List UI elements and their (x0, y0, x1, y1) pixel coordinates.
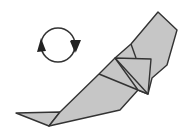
origami-diagram: Turn over (0, 0, 189, 132)
folded-model (16, 12, 177, 126)
body (49, 12, 177, 126)
turn-over-icon (37, 28, 81, 62)
